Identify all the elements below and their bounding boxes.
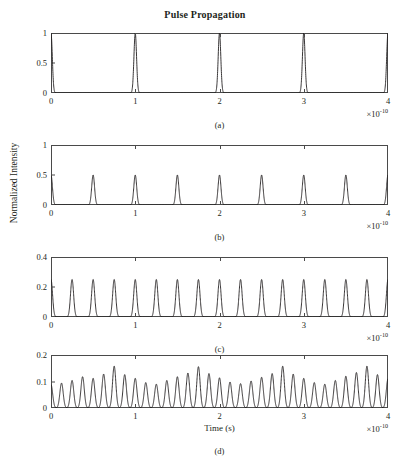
- x-axis-exponent-c: ×10-10: [367, 332, 388, 343]
- subplot-a: 1 0.5 0 0 1 2 3 4 ×10-10 (a): [51, 33, 388, 93]
- x-tick-label-c-3: 3: [302, 320, 306, 330]
- x-tick-label-b-2: 2: [217, 208, 221, 218]
- subplot-label-d-text: (d): [215, 446, 225, 456]
- subplot-label-b: (b): [51, 232, 388, 242]
- x-tick-label-d-4: 4: [386, 411, 390, 421]
- plot-curve-a: [51, 33, 388, 93]
- x-tick-label-b-4: 4: [386, 208, 390, 218]
- x-tick-mark-top-a-1: [135, 33, 136, 37]
- y-tick-mark-c-1: [51, 287, 55, 288]
- x-tick-mark-d-3: [304, 404, 305, 408]
- y-tick-label-d-2: 0: [43, 403, 47, 413]
- y-tick-label-b-1: 0.5: [36, 170, 47, 180]
- x-tick-label-a-1: 1: [133, 96, 137, 106]
- x-tick-label-a-3: 3: [302, 96, 306, 106]
- x-tick-mark-top-d-1: [135, 355, 136, 359]
- x-tick-mark-c-1: [135, 313, 136, 317]
- y-tick-mark-d-1: [51, 381, 55, 382]
- y-axis-label: Normalized Intensity: [9, 113, 19, 253]
- x-tick-mark-c-3: [304, 313, 305, 317]
- y-tick-label-a-2: 0: [43, 88, 47, 98]
- x-axis-label: Time (s): [51, 423, 388, 433]
- x-tick-mark-top-b-3: [304, 145, 305, 149]
- subplot-c: 0.4 0.2 0 0 1 2 3 4 ×10-10 (c): [51, 257, 388, 317]
- y-tick-label-d-0: 0.2: [36, 350, 47, 360]
- figure-canvas: Pulse Propagation Normalized Intensity 1…: [0, 0, 410, 472]
- y-tick-label-a-1: 0.5: [36, 58, 47, 68]
- x-tick-mark-d-2: [220, 404, 221, 408]
- x-tick-label-a-0: 0: [49, 96, 53, 106]
- subplot-b: 1 0.5 0 0 1 2 3 4 ×10-10 (b): [51, 145, 388, 205]
- exponent-base-b: ×10: [367, 221, 380, 231]
- x-tick-mark-top-d-3: [304, 355, 305, 359]
- x-tick-label-d-3: 3: [302, 411, 306, 421]
- subplot-label-d: (d): [51, 446, 388, 456]
- exponent-base-a: ×10: [367, 109, 380, 119]
- x-axis-exponent-a: ×10-10: [367, 108, 388, 119]
- x-axis-exponent-b: ×10-10: [367, 220, 388, 231]
- exponent-base-c: ×10: [367, 333, 380, 343]
- x-tick-mark-top-c-3: [304, 257, 305, 261]
- x-tick-mark-b-2: [220, 201, 221, 205]
- x-tick-mark-top-c-2: [220, 257, 221, 261]
- subplot-d: 0.2 0.1 0 0 1 2 3 4 ×10-10 Time (s) (d): [51, 355, 388, 408]
- y-tick-mark-b-1: [51, 175, 55, 176]
- x-tick-mark-top-a-2: [220, 33, 221, 37]
- x-tick-mark-top-a-3: [304, 33, 305, 37]
- x-tick-label-b-3: 3: [302, 208, 306, 218]
- y-tick-label-a-0: 1: [43, 28, 47, 38]
- x-tick-label-c-0: 0: [49, 320, 53, 330]
- x-tick-mark-d-1: [135, 404, 136, 408]
- y-tick-label-c-1: 0.2: [36, 282, 47, 292]
- x-tick-mark-b-3: [304, 201, 305, 205]
- plot-curve-d: [51, 355, 388, 408]
- y-tick-mark-a-1: [51, 63, 55, 64]
- x-tick-label-c-4: 4: [386, 320, 390, 330]
- exponent-power-b: -10: [380, 220, 388, 226]
- x-tick-mark-a-2: [220, 89, 221, 93]
- plot-curve-c: [51, 257, 388, 317]
- exponent-power-c: -10: [380, 332, 388, 338]
- x-tick-label-c-1: 1: [133, 320, 137, 330]
- exponent-power-a: -10: [380, 108, 388, 114]
- x-tick-label-d-0: 0: [49, 411, 53, 421]
- x-tick-mark-top-b-2: [220, 145, 221, 149]
- x-tick-mark-top-c-1: [135, 257, 136, 261]
- x-tick-label-d-1: 1: [133, 411, 137, 421]
- y-tick-label-b-2: 0: [43, 200, 47, 210]
- x-tick-mark-c-2: [220, 313, 221, 317]
- x-tick-mark-top-b-1: [135, 145, 136, 149]
- x-tick-mark-b-1: [135, 201, 136, 205]
- x-tick-mark-a-3: [304, 89, 305, 93]
- figure-title: Pulse Propagation: [0, 9, 410, 20]
- plot-curve-b: [51, 145, 388, 205]
- x-tick-mark-a-1: [135, 89, 136, 93]
- x-tick-label-b-1: 1: [133, 208, 137, 218]
- subplot-label-a: (a): [51, 120, 388, 130]
- subplot-label-c: (c): [51, 344, 388, 354]
- y-tick-label-c-2: 0: [43, 312, 47, 322]
- y-tick-label-c-0: 0.4: [36, 252, 47, 262]
- y-tick-label-b-0: 1: [43, 140, 47, 150]
- y-tick-label-d-1: 0.1: [36, 377, 47, 387]
- x-tick-label-b-0: 0: [49, 208, 53, 218]
- x-tick-label-a-2: 2: [217, 96, 221, 106]
- x-tick-mark-top-d-2: [220, 355, 221, 359]
- x-tick-label-d-2: 2: [217, 411, 221, 421]
- x-tick-label-a-4: 4: [386, 96, 390, 106]
- x-tick-label-c-2: 2: [217, 320, 221, 330]
